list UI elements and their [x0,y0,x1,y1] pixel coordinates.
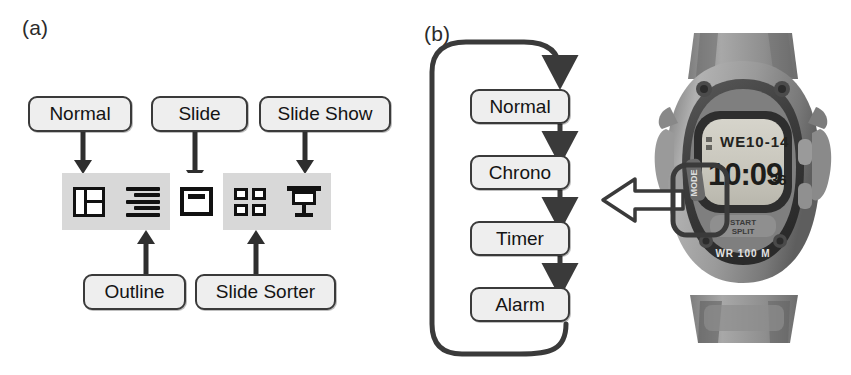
slide-view-icon [180,187,213,216]
label-slide-show-text: Slide Show [277,103,372,125]
outline-view-icon [126,187,160,217]
slide-show-view-icon [287,186,321,217]
normal-view-icon [73,187,105,217]
flow-node-normal-text: Normal [489,96,550,118]
flow-node-chrono: Chrono [470,155,570,190]
figure-root: (a) Normal Slide Slide Show Outline Slid… [0,0,851,375]
arrow-slide-show-to-toolbar [294,132,316,174]
label-outline-text: Outline [104,281,164,303]
watch-lcd-day: WE [0,0,1,1]
flow-node-alarm-text: Alarm [495,294,545,316]
label-slide-show: Slide Show [259,96,391,132]
toolbar-button-normal[interactable] [62,173,116,230]
label-outline: Outline [83,274,186,310]
label-slide: Slide [151,96,248,132]
flow-node-timer-text: Timer [496,228,544,250]
arrow-normal-to-toolbar [72,132,94,174]
flow-node-normal: Normal [470,89,570,124]
watch-lcd-values: WE 10-14 10:09 36 MODE START/SPLIT WR 10… [0,0,1,1]
lcd-seconds-text: 36 [770,171,787,188]
toolbar-button-slide[interactable] [170,173,224,230]
flow-node-alarm: Alarm [470,287,570,322]
panel-a-caption: (a) [22,16,48,40]
flow-node-chrono-text: Chrono [489,162,551,184]
flow-node-timer: Timer [470,221,570,256]
start-split-label-line2: SPLIT [732,227,755,236]
mode-button-callout [575,155,735,245]
arrow-outline-to-toolbar [135,230,157,274]
toolbar-button-slide-show[interactable] [277,173,331,230]
arrow-slide-sorter-to-toolbar [245,230,267,274]
label-normal: Normal [28,96,132,132]
view-toolbar-buttons [62,173,331,230]
toolbar-button-outline[interactable] [116,173,170,230]
toolbar-button-slide-sorter[interactable] [223,173,277,230]
label-slide-sorter-text: Slide Sorter [216,281,315,303]
lcd-day-text: WE [720,133,746,150]
label-normal-text: Normal [49,103,110,125]
label-slide-sorter: Slide Sorter [195,274,336,310]
label-slide-text: Slide [178,103,220,125]
lcd-date-text: 10-14 [746,133,789,150]
slide-sorter-view-icon [234,188,266,216]
water-resist-label: WR 100 M [715,248,770,259]
